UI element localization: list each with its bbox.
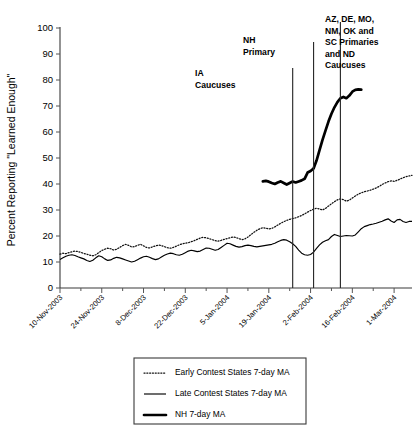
chart-legend: Early Contest States 7-day MALate Contes…: [134, 358, 306, 424]
y-axis-tick-label: 30: [42, 204, 53, 215]
event-annotation-label: Primary: [243, 47, 275, 57]
event-annotation-label: and ND: [325, 49, 355, 59]
event-annotation-label: SC Primaries: [325, 37, 379, 47]
y-axis-title: Percent Reporting "Learned Enough": [5, 73, 17, 246]
y-axis-tick-label: 100: [37, 22, 53, 33]
event-annotation-label: IA: [195, 68, 204, 78]
legend-item-label: Early Contest States 7-day MA: [175, 367, 290, 377]
event-annotation-label: NH: [243, 35, 255, 45]
chart-figure: 0102030405060708090100 10-Nov-200324-Nov…: [0, 0, 418, 444]
event-annotation-label: Caucuses: [195, 80, 236, 90]
y-axis-tick-label: 60: [42, 126, 53, 137]
y-axis-tick-label: 70: [42, 100, 53, 111]
line-chart-svg: 0102030405060708090100 10-Nov-200324-Nov…: [0, 0, 418, 444]
y-axis-tick-label: 0: [48, 282, 53, 293]
event-annotation-label: Caucuses: [325, 60, 366, 70]
y-axis-tick-label: 10: [42, 256, 53, 267]
legend-item-label: Late Contest States 7-day MA: [175, 388, 287, 398]
y-axis-tick-label: 80: [42, 74, 53, 85]
y-axis-tick-label: 40: [42, 178, 53, 189]
event-annotation-label: AZ, DE, MO,: [325, 14, 374, 24]
legend-item-label: NH 7-day MA: [175, 409, 226, 419]
event-annotation-label: NM, OK and: [325, 26, 374, 36]
y-axis-tick-label: 50: [42, 152, 53, 163]
y-axis-tick-label: 90: [42, 48, 53, 59]
y-axis-tick-label: 20: [42, 230, 53, 241]
